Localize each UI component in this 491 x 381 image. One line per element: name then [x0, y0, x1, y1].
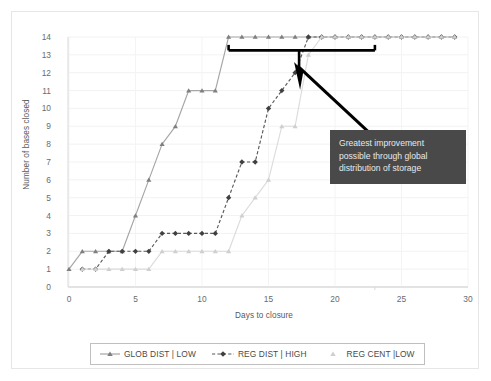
- y-axis-title: Number of bases closed: [22, 55, 31, 235]
- y-tick-label: 0: [31, 283, 51, 291]
- y-tick-label: 1: [31, 265, 51, 273]
- data-point-marker: [253, 159, 258, 164]
- data-point-marker: [199, 231, 204, 236]
- data-point-marker: [213, 231, 218, 236]
- y-tick-label: 9: [31, 122, 51, 130]
- y-tick-label: 6: [31, 176, 51, 184]
- chart-container: Number of bases closed Days to closure 0…: [11, 11, 479, 369]
- data-point-marker: [220, 351, 226, 357]
- y-tick-label: 5: [31, 194, 51, 202]
- callout-line-1: Greatest improvement: [339, 137, 458, 150]
- data-point-marker: [133, 249, 138, 254]
- data-point-marker: [226, 195, 231, 200]
- data-point-marker: [173, 231, 178, 236]
- y-tick-label: 11: [31, 87, 51, 95]
- legend-label: REG DIST | HIGH: [238, 349, 307, 359]
- legend-key-diamond-icon: [212, 349, 234, 359]
- y-tick-label: 2: [31, 247, 51, 255]
- annotation-callout-box: Greatest improvement possible through gl…: [330, 130, 466, 184]
- legend-item[interactable]: REG CENT |LOW: [323, 349, 415, 359]
- legend-key-triangle-icon: [323, 349, 343, 359]
- y-tick-label: 7: [31, 158, 51, 166]
- legend-label: GLOB DIST | LOW: [124, 349, 196, 359]
- legend-key-triangle-icon: [100, 349, 120, 359]
- data-point-marker: [159, 231, 164, 236]
- y-tick-label: 3: [31, 229, 51, 237]
- y-tick-label: 13: [31, 51, 51, 59]
- data-point-marker: [330, 351, 336, 356]
- x-axis-title: Days to closure: [58, 311, 470, 320]
- legend-item[interactable]: GLOB DIST | LOW: [100, 349, 196, 359]
- y-tick-label: 10: [31, 104, 51, 112]
- y-tick-label: 4: [31, 212, 51, 220]
- data-point-marker: [186, 231, 191, 236]
- data-point-marker: [239, 159, 244, 164]
- chart-legend: GLOB DIST | LOWREG DIST | HIGHREG CENT |…: [90, 343, 425, 365]
- callout-line-2: possible through global: [339, 150, 458, 163]
- y-tick-label: 12: [31, 69, 51, 77]
- legend-label: REG CENT |LOW: [347, 349, 415, 359]
- callout-line-3: distribution of storage: [339, 162, 458, 175]
- y-tick-label: 14: [31, 33, 51, 41]
- y-tick-label: 8: [31, 140, 51, 148]
- legend-item[interactable]: REG DIST | HIGH: [212, 349, 307, 359]
